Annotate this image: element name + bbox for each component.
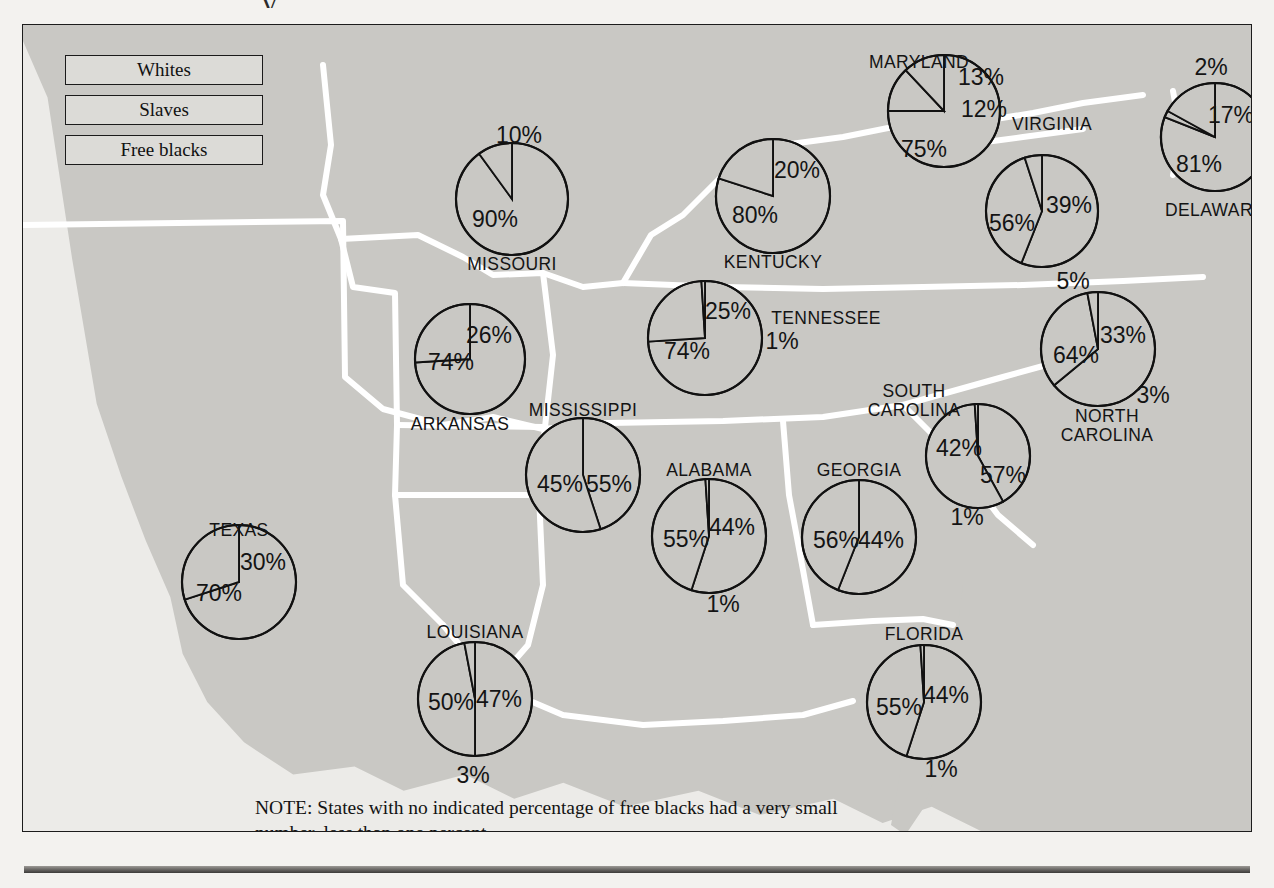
pie-percent-label: 42% (935, 435, 983, 462)
legend-item-whites: Whites (65, 55, 263, 85)
pie-percent-label: 20% (773, 157, 821, 184)
pie-percent-label: 56% (812, 527, 860, 554)
pie-percent-label: 39% (1045, 192, 1093, 219)
pie-percent-label: 3% (449, 762, 497, 789)
pie-label-florida: FLORIDA (814, 625, 1034, 644)
legend-label-slaves: Slaves (139, 99, 189, 121)
figure-page: y (0, 0, 1274, 888)
pie-percent-label: 75% (900, 136, 948, 163)
pie-percent-label: 30% (239, 549, 287, 576)
pie-percent-label: 57% (979, 462, 1027, 489)
pie-label-delaware: DELAWARE (1105, 201, 1252, 220)
pie-percent-label: 26% (465, 322, 513, 349)
legend: Whites Slaves Free blacks (65, 55, 265, 175)
pie-percent-label: 3% (1129, 382, 1177, 409)
pie-percent-label: 50% (427, 689, 475, 716)
pie-label-missouri: MISSOURI (402, 255, 622, 274)
title-remnant: y (262, 0, 302, 8)
pie-label-georgia: GEORGIA (749, 461, 969, 480)
pie-label-mississippi: MISSISSIPPI (473, 401, 693, 420)
pie-percent-label: 44% (708, 514, 756, 541)
pie-percent-label: 64% (1052, 342, 1100, 369)
pie-percent-label: 44% (857, 527, 905, 554)
pie-percent-label: 10% (495, 122, 543, 149)
pie-percent-label: 74% (663, 338, 711, 365)
pie-percent-label: 25% (704, 298, 752, 325)
pie-percent-label: 55% (875, 694, 923, 721)
legend-item-free-blacks: Free blacks (65, 135, 263, 165)
pie-percent-label: 81% (1175, 151, 1223, 178)
pie-label-louisiana: LOUISIANA (365, 623, 585, 642)
pie-percent-label: 55% (662, 526, 710, 553)
pie-percent-label: 56% (988, 210, 1036, 237)
pie-percent-label: 17% (1207, 102, 1252, 129)
pie-percent-label: 70% (195, 580, 243, 607)
pie-percent-label: 2% (1187, 54, 1235, 81)
pie-percent-label: 1% (758, 328, 806, 355)
figure-note: NOTE: States with no indicated percentag… (255, 795, 875, 832)
pie-percent-label: 80% (731, 202, 779, 229)
pie-label-south-carolina: SOUTH CAROLINA (804, 382, 1024, 420)
pie-label-kentucky: KENTUCKY (663, 253, 883, 272)
pie-percent-label: 74% (427, 349, 475, 376)
pie-percent-label: 33% (1099, 322, 1147, 349)
pie-label-virginia: VIRGINIA (942, 115, 1162, 134)
pie-percent-label: 45% (536, 471, 584, 498)
pie-percent-label: 1% (943, 504, 991, 531)
bottom-rule (24, 866, 1250, 873)
pie-percent-label: 90% (471, 206, 519, 233)
pie-percent-label: 44% (922, 682, 970, 709)
pie-slice (648, 281, 705, 341)
legend-label-free-blacks: Free blacks (120, 139, 207, 161)
map-frame: Whites Slaves Free blacks MISSOURI90%10%… (22, 24, 1252, 832)
pie-chart-kentucky (714, 137, 832, 255)
pie-chart-missouri (454, 141, 570, 257)
pie-label-texas: TEXAS (129, 521, 349, 540)
pie-percent-label: 13% (957, 64, 1005, 91)
pie-percent-label: 47% (475, 686, 523, 713)
legend-label-whites: Whites (137, 59, 191, 81)
pie-percent-label: 1% (917, 756, 965, 783)
pie-percent-label: 1% (699, 591, 747, 618)
legend-item-slaves: Slaves (65, 95, 263, 125)
